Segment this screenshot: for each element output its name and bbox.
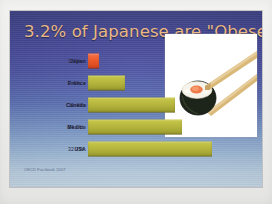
bar-value-france: 9.4% bbox=[68, 80, 81, 86]
source-citation: OECD Factbook 2007 bbox=[24, 167, 66, 172]
chart-row-mexico: Mexico 24.2% bbox=[10, 116, 262, 138]
bar-usa bbox=[88, 142, 212, 157]
bar-canada bbox=[88, 98, 175, 113]
bar-value-canada: 22.4% bbox=[68, 102, 84, 108]
screenshot-root: 3.2% of Japanese are "Obese" bbox=[0, 0, 272, 204]
bar-value-japan: 3.2% bbox=[68, 58, 81, 64]
bar-chart: Japan 3.2% France 9.4% Canada 22.4% Mexi… bbox=[10, 11, 262, 187]
bar-mexico bbox=[88, 120, 182, 135]
chart-row-usa: USA 32.2% bbox=[10, 138, 262, 160]
presentation-slide: 3.2% of Japanese are "Obese" bbox=[10, 11, 262, 187]
bar-value-usa: 32.2% bbox=[68, 146, 84, 152]
bar-france bbox=[88, 76, 125, 91]
bar-japan bbox=[88, 54, 99, 69]
chart-row-japan: Japan 3.2% bbox=[10, 50, 262, 72]
chart-row-france: France 9.4% bbox=[10, 72, 262, 94]
bar-value-mexico: 24.2% bbox=[68, 124, 84, 130]
chart-row-canada: Canada 22.4% bbox=[10, 94, 262, 116]
